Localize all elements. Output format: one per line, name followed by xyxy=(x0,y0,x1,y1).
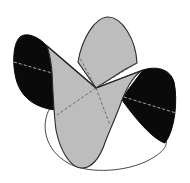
surface-diagram: Monkey saddle surface xyxy=(0,0,190,183)
